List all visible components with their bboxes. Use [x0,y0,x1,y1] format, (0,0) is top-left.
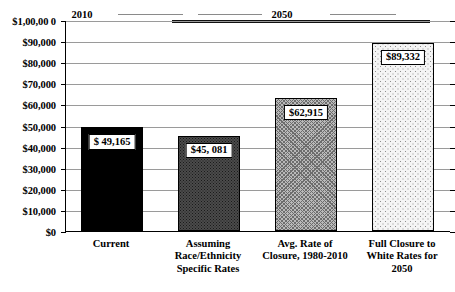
plot-area: $ 49,165 $45, 081 $62,915 $89,332 [65,21,450,232]
y-tick-mark-right [450,127,455,128]
era-rule-2050-left [198,14,262,15]
era-label-2010: 2010 [72,9,93,20]
y-tick-label: $30,000 [23,163,56,174]
y-tick-mark-right [450,63,455,64]
bar-series: $ 49,165 $45, 081 $62,915 $89,332 [66,21,450,231]
y-tick-label: $40,000 [23,142,56,153]
y-tick-mark-right [450,42,455,43]
y-tick-label: $80,000 [23,58,56,69]
y-tick-label: $20,000 [23,184,56,195]
x-category-label: Current [71,238,151,250]
bar-chart: 2010 2050 $1,00,00 0 $90,000 $80,000 $70… [0,0,455,292]
bar-value-label: $62,915 [284,105,328,120]
y-tick-label: $0 [46,227,56,238]
bar-avg-rate-of-closure[interactable]: $62,915 [275,98,337,231]
era-rule-2050-right [330,14,396,15]
y-tick-label: $60,000 [23,100,56,111]
bar-assuming-race-ethnicity-specific-rates[interactable]: $45, 081 [178,136,240,231]
era-label-2050: 2050 [272,9,293,20]
y-tick-label: $10,000 [23,205,56,216]
y-tick-label: $90,000 [23,37,56,48]
y-tick-mark-right [450,169,455,170]
y-tick-mark [61,232,66,233]
bar-value-label: $45, 081 [186,143,233,158]
y-axis-labels: $1,00,00 0 $90,000 $80,000 $70,000 $60,0… [0,0,62,292]
y-tick-mark-right [450,84,455,85]
bar-full-closure-to-white-rates[interactable]: $89,332 [372,43,434,232]
bar-value-label: $89,332 [381,50,425,65]
y-tick-mark-right [450,232,455,233]
bar-value-label: $ 49,165 [89,134,136,149]
y-tick-label: $50,000 [23,121,56,132]
era-rule-2010-right [118,14,183,15]
x-category-label: Avg. Rate of Closure, 1980-2010 [258,238,352,263]
x-category-label: Assuming Race/Ethnicity Specific Rates [165,238,251,275]
y-tick-mark-right [450,21,455,22]
y-tick-mark-right [450,148,455,149]
bar-current[interactable]: $ 49,165 [81,127,143,231]
x-axis-labels: Current Assuming Race/Ethnicity Specific… [65,238,450,292]
y-tick-mark-right [450,211,455,212]
y-tick-mark-right [450,190,455,191]
y-tick-mark-right [450,105,455,106]
y-tick-label: $70,000 [23,79,56,90]
y-tick-label: $1,00,00 0 [12,16,56,27]
x-category-label: Full Closure to White Rates for 2050 [359,238,445,275]
